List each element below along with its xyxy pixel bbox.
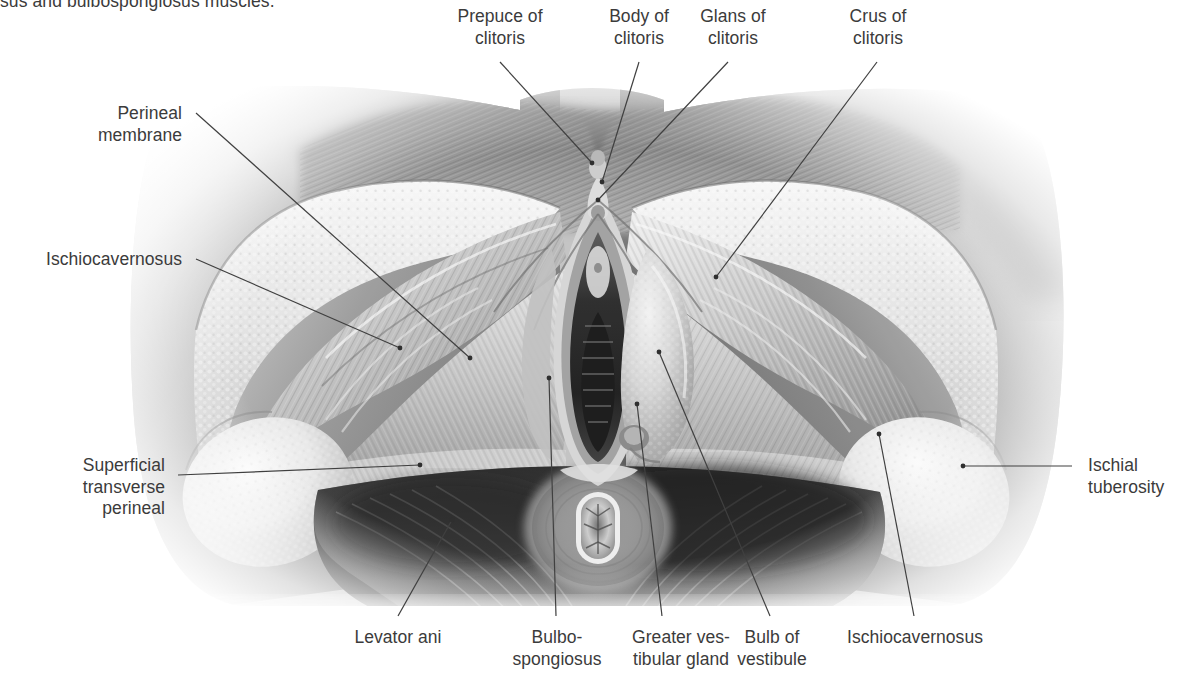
label-levator-ani: Levator ani — [328, 627, 468, 649]
label-bulb-of-vestibule: Bulb of vestibule — [716, 627, 828, 670]
label-ischiocavernosus-right: Ischiocavernosus — [830, 627, 1000, 649]
label-ischial-tuberosity: Ischial tuberosity — [1088, 455, 1184, 498]
label-perineal-membrane: Perineal membrane — [0, 103, 182, 146]
label-ischiocavernosus-left: Ischiocavernosus — [0, 249, 182, 271]
anatomy-figure: sus and bulbospongiosus muscles. — [0, 0, 1184, 678]
perineum-illustration — [0, 0, 1184, 678]
label-glans-of-clitoris: Glans of clitoris — [670, 6, 796, 49]
label-prepuce-of-clitoris: Prepuce of clitoris — [430, 6, 570, 49]
label-superficial-transverse-perineal: Superficial transverse perineal — [0, 455, 165, 520]
label-crus-of-clitoris: Crus of clitoris — [818, 6, 938, 49]
illustration-vignette — [100, 55, 1100, 635]
